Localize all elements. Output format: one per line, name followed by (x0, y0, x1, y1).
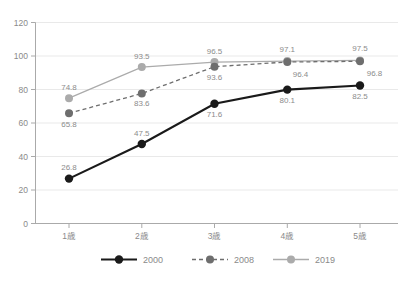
line-chart: 120 100 80 60 40 20 0 1歳 2歳 3歳 4歳 5歳 (0, 0, 414, 283)
series-2008-point-4 (283, 58, 291, 66)
x-tick-label-2: 2歳 (135, 231, 149, 241)
y-tick-label-100: 100 (14, 51, 28, 61)
series-2008-point-3 (211, 63, 219, 71)
x-axis-ticks (69, 224, 360, 229)
legend-item-2000[interactable]: 2000 (101, 255, 163, 265)
legend-marker-2019 (287, 256, 295, 264)
x-tick-label-5: 5歳 (353, 231, 367, 241)
series-2000 (65, 81, 364, 183)
legend-item-2019[interactable]: 2019 (273, 255, 335, 265)
data-label-2008-3: 93.6 (207, 73, 223, 82)
y-tick-label-60: 60 (19, 118, 29, 128)
y-axis-labels: 120 100 80 60 40 20 0 (14, 18, 28, 229)
series-2000-point-3 (210, 100, 218, 108)
y-tick-label-120: 120 (14, 18, 28, 28)
data-label-2000-3: 71.6 (207, 110, 223, 119)
series-2000-line (69, 86, 360, 179)
data-label-2000-4: 80.1 (280, 96, 296, 105)
series-2008-point-2 (138, 90, 146, 98)
data-label-2019-1: 74.8 (61, 83, 77, 92)
data-label-2008-2: 83.6 (134, 99, 150, 108)
legend-item-2008[interactable]: 2008 (192, 255, 254, 265)
data-label-2019-4: 97.1 (280, 45, 296, 54)
x-axis-labels: 1歳 2歳 3歳 4歳 5歳 (62, 231, 367, 241)
series-2008-point-5 (356, 57, 364, 65)
series-2000-point-4 (283, 85, 291, 93)
data-label-2000-5: 82.5 (352, 92, 368, 101)
data-label-2019-5: 97.5 (352, 44, 368, 53)
x-tick-label-1: 1歳 (62, 231, 76, 241)
data-label-2008-5: 96.8 (367, 69, 383, 78)
legend-marker-2000 (115, 255, 123, 263)
x-tick-label-3: 3歳 (208, 231, 222, 241)
legend-label-2019: 2019 (315, 255, 335, 265)
series-2019-point-1 (65, 94, 73, 102)
y-tick-label-80: 80 (19, 85, 29, 95)
legend-label-2008: 2008 (234, 255, 254, 265)
legend-label-2000: 2000 (143, 255, 163, 265)
data-label-2008-1: 65.8 (61, 120, 77, 129)
data-label-2000-1: 26.8 (61, 163, 77, 172)
data-label-2019-2: 93.5 (134, 52, 150, 61)
series-2000-point-2 (138, 140, 146, 148)
data-label-2008-4: 96.4 (293, 70, 309, 79)
y-tick-label-40: 40 (19, 152, 29, 162)
series-2000-point-5 (356, 81, 364, 89)
data-label-2019-3: 96.5 (207, 47, 223, 56)
data-label-2000-2: 47.5 (134, 129, 150, 138)
legend-marker-2008 (206, 256, 214, 264)
series-2008-point-1 (65, 109, 73, 117)
y-tick-label-0: 0 (23, 219, 28, 229)
series-2019-point-2 (138, 63, 146, 71)
chart-canvas: 120 100 80 60 40 20 0 1歳 2歳 3歳 4歳 5歳 (0, 0, 414, 283)
y-axis-ticks (31, 23, 36, 224)
x-tick-label-4: 4歳 (280, 231, 294, 241)
y-tick-label-20: 20 (19, 185, 29, 195)
chart-legend: 2000 2008 2019 (101, 255, 335, 265)
series-2000-point-1 (65, 174, 73, 182)
data-labels-2008: 65.8 83.6 93.6 96.4 96.8 (61, 69, 383, 129)
